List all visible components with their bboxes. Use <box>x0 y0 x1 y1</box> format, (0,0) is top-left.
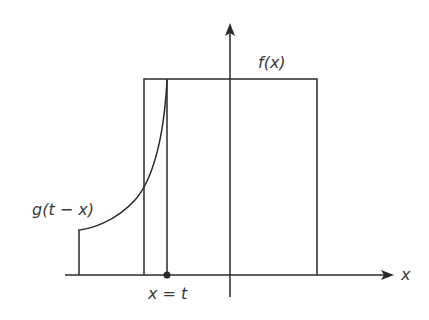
g-curve <box>79 80 167 275</box>
x-axis-label: x <box>400 265 411 284</box>
xt-label: x = t <box>147 284 188 303</box>
g-label: g(t − x) <box>32 200 94 219</box>
t-point <box>164 272 171 279</box>
convolution-diagram: f(x) g(t − x) x = t x <box>0 0 429 320</box>
f-label: f(x) <box>258 53 286 72</box>
